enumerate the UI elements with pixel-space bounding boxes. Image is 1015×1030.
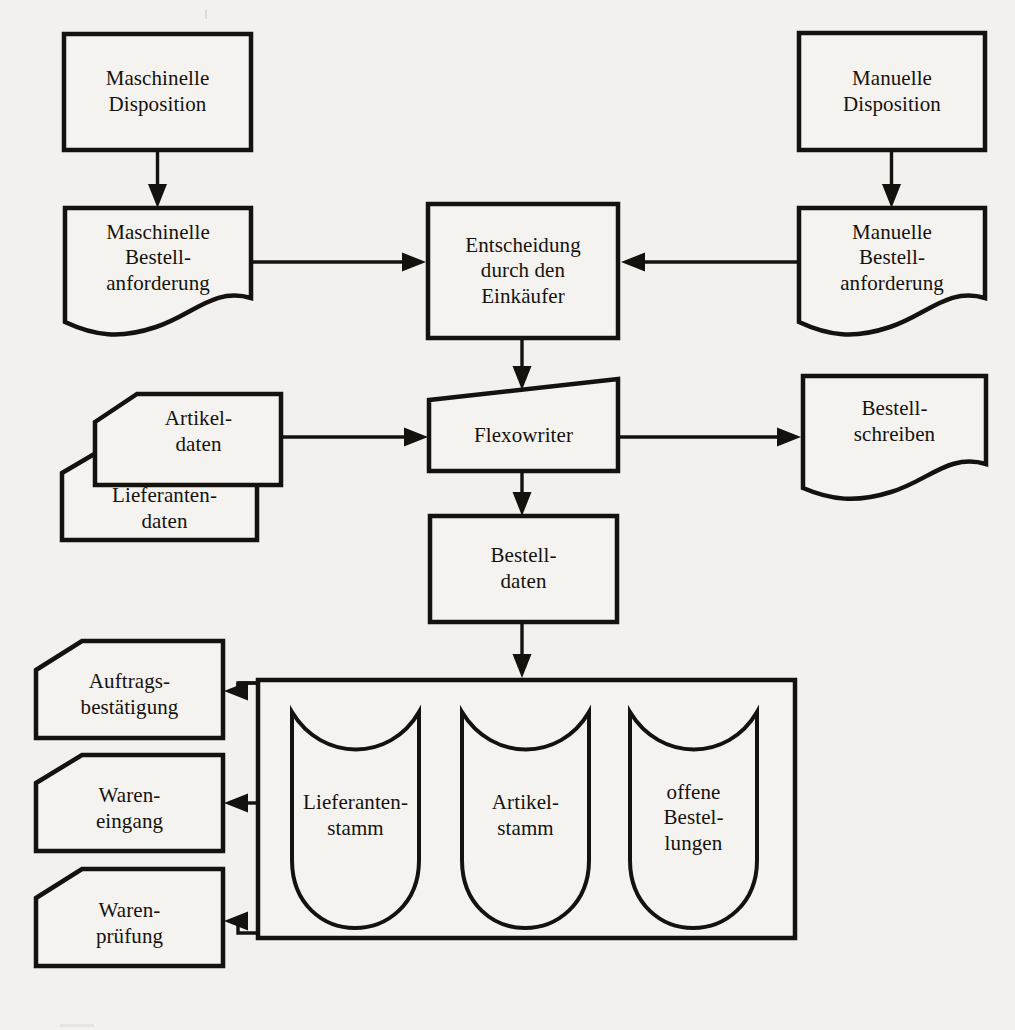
node-artikeldaten-shape <box>95 394 281 485</box>
node-bestelldaten-shape <box>430 516 617 622</box>
node-flexowriter-shape <box>429 379 618 471</box>
edge-masch-ba-to-entsch <box>251 253 426 272</box>
node-manuelle-disposition-shape <box>799 33 985 150</box>
flowchart-page: Maschinelle Disposition Manuelle Disposi… <box>0 0 1015 1030</box>
node-auftragsbestaetigung-shape <box>36 641 223 738</box>
edge-entsch-to-flexo <box>513 338 532 390</box>
edge-man-ba-to-entsch <box>621 253 799 272</box>
node-manuelle-bestellanforderung-shape <box>799 208 985 334</box>
edge-man-disp-to-man-ba <box>882 150 901 208</box>
node-bestellschreiben-shape <box>803 376 986 499</box>
node-maschinelle-disposition-shape <box>64 34 251 150</box>
edge-bestelldaten-to-bestand <box>513 622 532 678</box>
node-entscheidung-einkaeufer-shape <box>428 204 618 338</box>
edge-flexo-to-bestelldaten <box>513 471 532 516</box>
edge-bestand-to-warenpruef <box>224 912 258 934</box>
flowchart-canvas <box>0 0 1015 1030</box>
edge-bestand-to-auftragsb <box>224 682 258 701</box>
edge-bestand-to-wareneingang <box>224 794 258 813</box>
node-wareneingang-shape <box>36 755 223 851</box>
scan-artifact-top <box>205 10 207 19</box>
node-maschinelle-bestellanforderung-shape <box>65 208 251 334</box>
edge-stammdaten-to-flexo <box>281 428 428 447</box>
edge-masch-disp-to-masch-ba <box>148 150 167 208</box>
edge-flexo-to-bestellschr <box>618 428 801 447</box>
node-warenpruefung-shape <box>36 869 223 966</box>
scan-artifact-bottom <box>60 1024 94 1027</box>
